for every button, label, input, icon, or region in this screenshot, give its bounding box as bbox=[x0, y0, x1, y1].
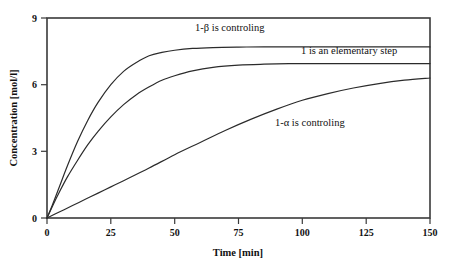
y-axis-title: Concentration [mol/l] bbox=[8, 69, 19, 166]
curve-1-alpha-controlling bbox=[47, 78, 430, 218]
curve-elementary-step bbox=[47, 64, 430, 218]
annotation-1-alpha-controlling: 1-α is controling bbox=[275, 117, 345, 128]
curve-1-beta-controlling bbox=[47, 47, 430, 218]
x-tick-label: 25 bbox=[106, 227, 116, 238]
x-tick-label: 50 bbox=[170, 227, 180, 238]
x-tick-labels: 0 25 50 75 100 125 150 bbox=[45, 227, 438, 238]
curve-annotations: 1-β is controling 1 is an elementary ste… bbox=[195, 22, 397, 128]
y-tick-label: 3 bbox=[32, 146, 37, 157]
x-tick-label: 125 bbox=[359, 227, 374, 238]
annotation-elementary-step: 1 is an elementary step bbox=[301, 45, 397, 56]
x-tick-label: 100 bbox=[295, 227, 310, 238]
annotation-1-beta-controlling: 1-β is controling bbox=[195, 22, 265, 33]
y-axis-ticks bbox=[41, 18, 47, 218]
x-axis-title: Time [min] bbox=[213, 247, 263, 258]
concentration-vs-time-chart: 0 25 50 75 100 125 150 0 3 6 9 Time [min… bbox=[0, 0, 455, 266]
x-axis-ticks bbox=[47, 218, 430, 224]
x-tick-label: 0 bbox=[45, 227, 50, 238]
y-tick-label: 9 bbox=[32, 13, 37, 24]
x-tick-label: 150 bbox=[423, 227, 438, 238]
x-tick-label: 75 bbox=[234, 227, 244, 238]
y-tick-label: 0 bbox=[32, 213, 37, 224]
y-tick-labels: 0 3 6 9 bbox=[32, 13, 37, 224]
y-tick-label: 6 bbox=[32, 79, 37, 90]
curve-group bbox=[47, 47, 430, 218]
